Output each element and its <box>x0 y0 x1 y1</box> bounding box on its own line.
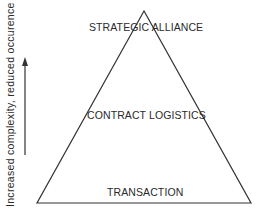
axis-label: Increased complexity, reduced occurence <box>4 2 16 207</box>
level-strategic-alliance: STRATEGIC ALLIANCE <box>89 21 203 33</box>
level-contract-logistics: CONTRACT LOGISTICS <box>87 109 206 121</box>
pyramid-diagram: Increased complexity, reduced occurence … <box>0 0 263 221</box>
level-transaction: TRANSACTION <box>107 186 183 198</box>
axis-arrow-head-icon <box>22 57 28 66</box>
pyramid-triangle <box>37 11 251 203</box>
